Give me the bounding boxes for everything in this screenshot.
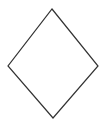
diamond-shape [8, 9, 98, 118]
diagram-canvas [0, 0, 106, 126]
diamond-diagram [0, 0, 106, 126]
